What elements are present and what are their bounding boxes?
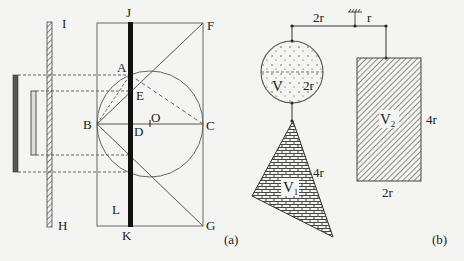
archimedes-method-diagram: I J F A E B D O C L H K G (a) 2r r [0,0,464,261]
label-e: E [136,88,144,103]
hatched-bar-ih [47,22,52,227]
label-cone-4r: 4r [313,165,325,180]
label-sphere-v: V [272,78,283,94]
label-sphere-2r: 2r [303,78,315,93]
label-f: F [207,18,214,33]
caption-a: (a) [224,232,238,247]
label-left-arm: 2r [313,10,325,25]
label-d: D [134,124,143,139]
label-b: B [83,117,92,132]
lever-point-pivot [353,24,356,27]
label-j: J [126,5,131,20]
striped-bar [31,91,36,155]
caption-b: (b) [432,232,447,247]
label-c: C [206,118,215,133]
diagonal-bf [97,23,203,124]
label-k: K [122,228,132,243]
label-cylinder-4r: 4r [426,112,438,127]
label-cylinder-2r: 2r [382,185,394,200]
label-g: G [206,218,215,233]
dark-bar [13,75,18,172]
chord-ba-dashed [97,75,130,124]
label-right-arm: r [367,10,372,25]
thick-bar-jk [128,22,133,227]
label-o: O [151,110,160,125]
label-a: A [117,60,127,75]
label-h: H [58,218,67,233]
label-l: L [112,202,120,217]
sphere-top-point [291,40,294,43]
figure-a: I J F A E B D O C L H K G (a) [13,5,238,247]
label-i: I [62,16,66,31]
pivot-support [348,9,362,26]
figure-b: 2r r V 2r V1 4r V2 4r 2r (b) [252,9,447,247]
